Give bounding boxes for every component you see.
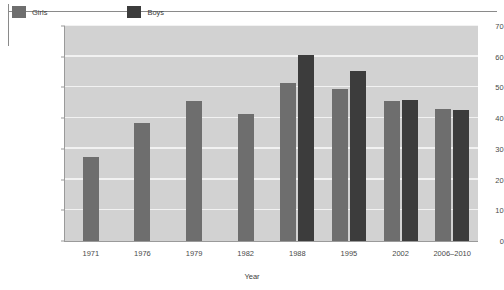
bar-boys-1995: [350, 71, 366, 241]
gridline: [65, 55, 478, 57]
gridline: [65, 86, 478, 88]
plot-area: [65, 26, 478, 241]
x-axis-tick: 1976: [134, 249, 151, 258]
y-axis-tick-mark: [61, 118, 65, 119]
x-axis-tick: 2002: [392, 249, 409, 258]
y-axis-tick: 40: [448, 114, 504, 123]
bar-girls-1982: [238, 114, 254, 241]
bar-chart-figure: 010203040506070 197119761979198219881995…: [0, 0, 504, 290]
girls-legend-swatch-icon: [12, 6, 26, 18]
y-axis-tick-mark: [61, 148, 65, 149]
x-axis-tick: 1982: [237, 249, 254, 258]
y-axis-tick-mark: [61, 241, 65, 242]
y-axis-tick-mark: [61, 87, 65, 88]
legend-item-girls: Girls: [12, 6, 47, 18]
legend-label-girls: Girls: [32, 8, 47, 17]
bar-boys-2002: [402, 100, 418, 241]
bar-girls-1971: [83, 157, 99, 241]
y-axis-tick-mark: [61, 56, 65, 57]
legend-label-boys: Boys: [147, 8, 164, 17]
bar-girls-1976: [134, 123, 150, 241]
x-axis-tick: 1988: [289, 249, 306, 258]
boys-legend-swatch-icon: [127, 6, 141, 18]
y-axis-tick-mark: [61, 210, 65, 211]
bar-girls-1995: [332, 89, 348, 241]
y-axis-tick-mark: [61, 26, 65, 27]
bar-girls-2002: [384, 101, 400, 241]
x-axis-tick: 1979: [186, 249, 203, 258]
y-axis-tick: 60: [448, 52, 504, 61]
y-axis-tick: 20: [448, 175, 504, 184]
y-axis-tick: 10: [448, 206, 504, 215]
x-axis-title: Year: [0, 272, 504, 281]
y-axis-tick: 0: [448, 237, 504, 246]
y-axis-tick: 30: [448, 144, 504, 153]
bar-girls-1988: [280, 83, 296, 241]
x-axis-tick: 1995: [341, 249, 358, 258]
chart-legend: Girls Boys: [12, 6, 164, 18]
bar-boys-1988: [298, 55, 314, 241]
legend-item-boys: Boys: [127, 6, 164, 18]
y-axis-tick: 50: [448, 83, 504, 92]
x-axis-tick: 1971: [82, 249, 99, 258]
gridline: [65, 25, 478, 27]
bar-girls-1979: [186, 101, 202, 241]
y-axis-tick: 70: [448, 22, 504, 31]
x-axis-tick: 2006–2010: [433, 249, 471, 258]
x-axis-line: [64, 241, 478, 242]
y-axis-tick-mark: [61, 179, 65, 180]
